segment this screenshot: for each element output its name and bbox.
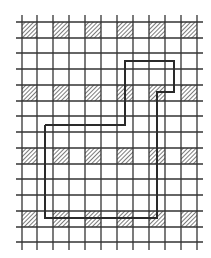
hatched-cell xyxy=(181,211,197,227)
hatched-cell xyxy=(117,148,133,164)
hatched-cell xyxy=(181,148,197,164)
hatched-cell xyxy=(181,85,197,101)
hatched-cell xyxy=(85,148,101,164)
hatched-cell xyxy=(22,85,37,101)
grid-diagram xyxy=(0,0,211,258)
hatched-cell xyxy=(85,85,101,101)
hatched-cell xyxy=(53,85,69,101)
hatched-cell xyxy=(22,211,37,227)
hatched-cell xyxy=(22,148,37,164)
hatched-cell xyxy=(85,22,101,38)
hatched-cell xyxy=(53,148,69,164)
hatched-cell xyxy=(53,22,69,38)
hatched-cell xyxy=(22,22,37,38)
hatched-cell xyxy=(181,22,197,38)
hatched-cell xyxy=(149,22,165,38)
hatched-cell xyxy=(117,22,133,38)
